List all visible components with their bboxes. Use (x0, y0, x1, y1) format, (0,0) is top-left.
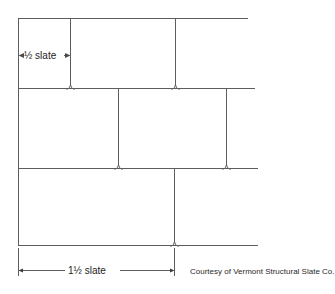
dimension-label-one-and-half-slate: 1½ slate (68, 265, 106, 276)
course-3-joints (19, 168, 179, 247)
slate-pattern-svg: ½ slate 1½ slate Courtesy of Vermont Str… (0, 0, 335, 294)
dimension-label-half-slate: ½ slate (24, 50, 57, 61)
credit-text: Courtesy of Vermont Structural Slate Co. (190, 267, 335, 276)
arrow-head-right-half-slate (65, 53, 71, 58)
course-2-joints (19, 88, 231, 170)
dimension-one-and-half-slate: 1½ slate (19, 248, 175, 276)
dimension-half-slate: ½ slate (19, 50, 71, 61)
slate-pattern-diagram: ½ slate 1½ slate Courtesy of Vermont Str… (0, 0, 335, 294)
arrow-head-right-one-half-slate (170, 269, 175, 273)
arrow-head-left-one-half-slate (19, 269, 24, 273)
